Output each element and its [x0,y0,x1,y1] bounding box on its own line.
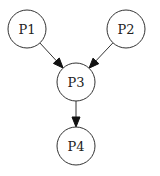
arrowhead-icon [72,117,80,127]
process-graph: P1P2P3P4 [0,0,160,176]
node-label: P1 [18,22,35,37]
nodes: P1P2P3P4 [8,10,145,165]
node-label: P3 [67,75,84,90]
node-label: P2 [117,22,134,37]
edge-p3-p4 [72,101,80,127]
edge-line [40,43,56,61]
node-label: P4 [67,139,84,154]
node-p4: P4 [57,127,95,165]
node-p3: P3 [57,63,95,101]
node-p1: P1 [8,10,46,48]
edge-p2-p3 [89,43,113,68]
node-p2: P2 [107,10,145,48]
edge-p1-p3 [40,43,63,68]
edge-line [96,43,113,61]
